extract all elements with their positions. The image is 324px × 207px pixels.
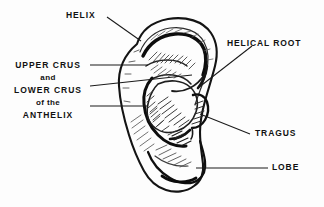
label-tragus: TRAGUS — [255, 128, 296, 139]
ear-anatomy-diagram: HELIX HELICAL ROOT TRAGUS LOBE UPPER CRU… — [0, 0, 324, 207]
label-upper-crus: UPPER CRUS — [8, 59, 88, 72]
label-helical-root: HELICAL ROOT — [227, 38, 301, 49]
label-lower-crus: LOWER CRUS — [8, 84, 88, 97]
label-of-the: of the — [8, 97, 88, 110]
label-anthelix-group: UPPER CRUS and LOWER CRUS of the ANTHELI… — [8, 59, 88, 122]
label-helix: HELIX — [66, 10, 96, 21]
label-anthelix: ANTHELIX — [8, 109, 88, 122]
label-lobe: LOBE — [272, 162, 299, 173]
label-conjunction-and: and — [8, 72, 88, 85]
